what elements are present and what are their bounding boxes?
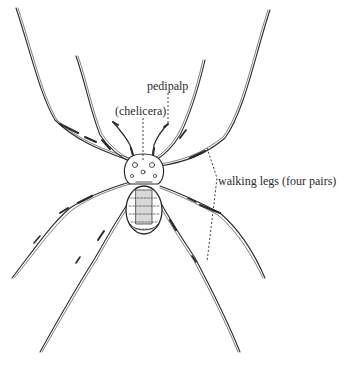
walking-legs-label: walking legs (four pairs) (218, 175, 336, 187)
cephalothorax (124, 154, 163, 184)
pedipalp-label: pedipalp (147, 80, 188, 92)
leg-left-4 (40, 195, 135, 352)
abdomen (126, 186, 162, 234)
pedipalp-left (113, 122, 134, 160)
walking-legs-leader-line (207, 148, 217, 262)
leg-left-3 (12, 182, 130, 278)
leg-left-1 (16, 8, 129, 160)
harvestman-diagram: pedipalp (chelicera) walking legs (four … (0, 0, 338, 367)
chelicera-label: (chelicera) (115, 105, 166, 117)
